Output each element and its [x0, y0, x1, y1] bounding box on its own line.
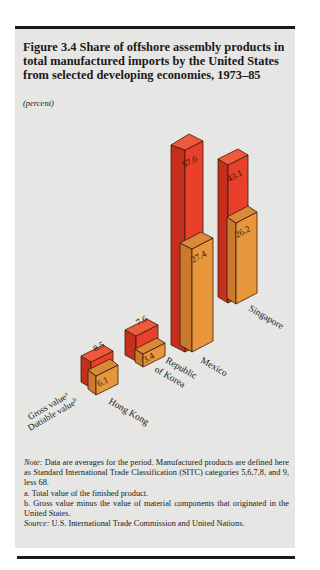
bar-mexico-dutiable: [180, 232, 213, 352]
footnote-b: b. Gross value minus the value of materi…: [24, 499, 289, 519]
figure-notes: Note: Data are averages for the period. …: [24, 458, 289, 529]
legend: Gross valuea Dutiable valueb: [26, 390, 79, 433]
category-singapore: Singapore: [247, 303, 285, 331]
bar-singapore-dutiable: [227, 206, 257, 304]
footnote-a: a. Total value of the finished product.: [24, 489, 289, 499]
category-hongkong: Hong Kong: [107, 396, 151, 427]
source: Source: U.S. International Trade Commiss…: [24, 519, 289, 529]
category-mexico: Mexico: [199, 355, 229, 378]
note: Note: Data are averages for the period. …: [24, 458, 289, 489]
